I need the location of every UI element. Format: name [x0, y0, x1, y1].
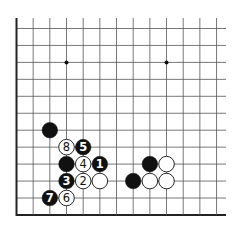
move-number: 8: [63, 140, 70, 154]
move-number: 7: [46, 191, 54, 205]
white-stone: 4: [75, 156, 91, 172]
black-stone: [125, 173, 141, 189]
black-stone: [59, 156, 75, 172]
white-stone: 6: [59, 190, 75, 206]
white-stone: [159, 156, 175, 172]
go-board: 85413276: [0, 0, 242, 226]
star-point: [165, 60, 169, 64]
white-stone: 8: [59, 139, 75, 155]
black-stone: 5: [75, 139, 91, 155]
white-stone: [92, 173, 108, 189]
move-number: 2: [80, 174, 87, 188]
move-number: 3: [63, 174, 71, 188]
move-number: 1: [96, 157, 104, 171]
black-stone: [42, 122, 58, 138]
move-number: 4: [80, 157, 87, 171]
white-stone: 2: [75, 173, 91, 189]
white-stone: [142, 173, 158, 189]
white-stone: [159, 173, 175, 189]
board-grid: [17, 18, 227, 216]
move-number: 5: [79, 140, 87, 154]
move-number: 6: [63, 191, 70, 205]
black-stone: 3: [59, 173, 75, 189]
black-stone: 7: [42, 190, 58, 206]
star-point: [65, 60, 69, 64]
black-stone: 1: [92, 156, 108, 172]
black-stone: [142, 156, 158, 172]
